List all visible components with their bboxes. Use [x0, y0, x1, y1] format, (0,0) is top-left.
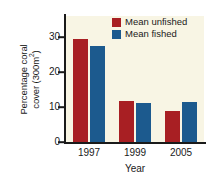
- x-axis-line: [64, 142, 206, 144]
- bar-1997-fished: [90, 46, 105, 142]
- coral-cover-bar-chart: Percentage coral cover (300m2) 0102030 1…: [0, 0, 210, 183]
- x-tick-label-1997: 1997: [78, 147, 100, 159]
- y-tick-mark-30: [58, 36, 65, 38]
- x-tick-label-1999: 1999: [124, 147, 146, 159]
- y-axis-title-line2-text: cover (300m: [29, 56, 40, 108]
- y-axis-tick-labels: 0102030: [40, 16, 64, 142]
- y-tick-mark-0: [58, 141, 65, 143]
- y-tick-mark-20: [58, 71, 65, 73]
- y-axis-title-line1: Percentage coral: [18, 44, 29, 114]
- x-axis-tick-labels: 199719992005: [66, 147, 204, 161]
- bar-2005-fished: [182, 102, 197, 142]
- y-tick-mark-10: [58, 106, 65, 108]
- bar-2005-unfished: [165, 111, 180, 142]
- bar-1999-unfished: [119, 101, 134, 142]
- legend-swatch-fished: [112, 30, 121, 39]
- x-axis-title: Year: [66, 163, 204, 175]
- bar-1997-unfished: [73, 39, 88, 142]
- legend-item-unfished: Mean unfished: [112, 17, 187, 27]
- legend: Mean unfishedMean fished: [112, 17, 187, 39]
- legend-item-fished: Mean fished: [112, 29, 187, 39]
- bar-1999-fished: [136, 103, 151, 142]
- legend-swatch-unfished: [112, 18, 121, 27]
- legend-label-unfished: Mean unfished: [125, 17, 187, 27]
- y-axis-title-line2-close: ): [29, 50, 40, 53]
- bar-group-1997: [73, 16, 105, 142]
- x-tick-label-2005: 2005: [170, 147, 192, 159]
- legend-label-fished: Mean fished: [125, 29, 177, 39]
- y-axis-title-line2: cover (300m2): [29, 44, 41, 114]
